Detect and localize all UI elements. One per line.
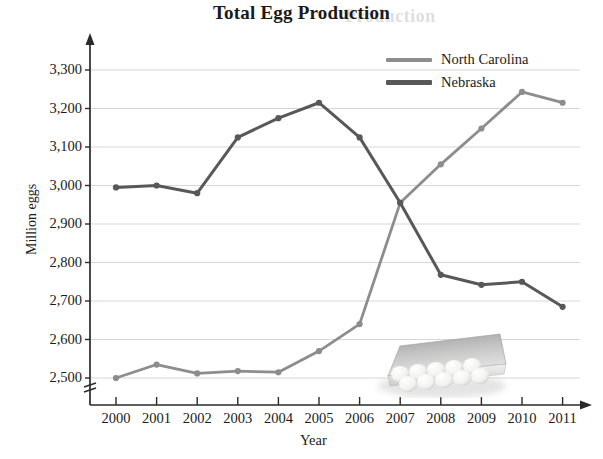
- x-tick-label: 2005: [299, 410, 339, 427]
- legend-label-north-carolina: North Carolina: [441, 51, 528, 68]
- x-tick-label: 2006: [340, 410, 380, 427]
- x-tick-label: 2002: [177, 410, 217, 427]
- chart-legend: North Carolina Nebraska: [386, 48, 528, 94]
- legend-item-nebraska: Nebraska: [386, 71, 528, 94]
- x-tick-label: 2001: [137, 410, 177, 427]
- y-tick-label: 2,600: [20, 331, 82, 348]
- legend-swatch-north-carolina: [386, 58, 432, 62]
- y-tick-label: 2,700: [20, 292, 82, 309]
- x-tick-label: 2011: [543, 410, 583, 427]
- x-tick-label: 2009: [461, 410, 501, 427]
- x-tick-label: 2000: [96, 410, 136, 427]
- x-axis-title: Year: [300, 432, 327, 449]
- y-tick-label: 3,300: [20, 61, 82, 78]
- y-tick-label: 2,800: [20, 254, 82, 271]
- x-tick-label: 2004: [258, 410, 298, 427]
- x-tick-label: 2010: [502, 410, 542, 427]
- chart-container: Production Total Egg Production 2,5002,6…: [0, 0, 603, 459]
- y-tick-label: 3,200: [20, 100, 82, 117]
- y-tick-label: 2,500: [20, 369, 82, 386]
- legend-swatch-nebraska: [386, 80, 432, 85]
- legend-item-north-carolina: North Carolina: [386, 48, 528, 71]
- y-axis-title: Million eggs: [24, 184, 40, 255]
- legend-label-nebraska: Nebraska: [441, 74, 496, 91]
- x-tick-label: 2008: [421, 410, 461, 427]
- x-tick-label: 2003: [218, 410, 258, 427]
- x-tick-label: 2007: [380, 410, 420, 427]
- y-tick-label: 3,100: [20, 138, 82, 155]
